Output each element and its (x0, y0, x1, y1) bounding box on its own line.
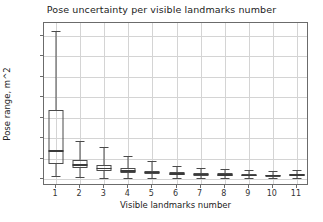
x-tick-mark (151, 185, 152, 188)
x-tick-label: 8 (212, 189, 236, 198)
x-tick-mark (296, 185, 297, 188)
x-tick-mark (103, 185, 104, 188)
cap-lower (148, 178, 157, 179)
x-tick-mark (272, 185, 273, 188)
cap-upper (268, 171, 277, 172)
cap-lower (52, 176, 61, 177)
boxplot-box-group (265, 23, 280, 184)
boxplot-box-group (97, 23, 112, 184)
boxplot-box-group (145, 23, 160, 184)
cap-upper (52, 31, 61, 32)
cap-lower (76, 177, 85, 178)
median-line (73, 164, 88, 166)
x-tick-label: 5 (139, 189, 163, 198)
boxplot-figure: Pose uncertainty per visible landmarks n… (0, 0, 323, 222)
whisker-upper (104, 147, 105, 165)
cap-lower (244, 178, 253, 179)
x-axis-label: Visible landmarks number (43, 200, 308, 210)
whisker-upper (176, 166, 177, 173)
box-iqr (49, 110, 64, 164)
boxplot-box-group (73, 23, 88, 184)
cap-upper (124, 156, 133, 157)
cap-lower (292, 178, 301, 179)
boxplot-box-group (289, 23, 304, 184)
cap-upper (76, 141, 85, 142)
cap-upper (196, 168, 205, 169)
x-tick-mark (55, 185, 56, 188)
chart-title: Pose uncertainty per visible landmarks n… (0, 4, 323, 15)
median-line (265, 175, 280, 177)
whisker-upper (152, 161, 153, 171)
x-tick-mark (127, 185, 128, 188)
x-tick-label: 1 (43, 189, 67, 198)
x-tick-mark (79, 185, 80, 188)
cap-lower (124, 178, 133, 179)
x-tick-mark (224, 185, 225, 188)
boxplot-box-group (217, 23, 232, 184)
whisker-upper (80, 141, 81, 159)
cap-lower (100, 178, 109, 179)
cap-upper (100, 147, 109, 148)
median-line (217, 174, 232, 176)
cap-upper (172, 166, 181, 167)
x-tick-label: 10 (260, 189, 284, 198)
cap-lower (196, 178, 205, 179)
cap-upper (148, 161, 157, 162)
cap-lower (268, 178, 277, 179)
x-tick-mark (200, 185, 201, 188)
cap-lower (172, 178, 181, 179)
cap-upper (244, 170, 253, 171)
cap-upper (220, 169, 229, 170)
x-tick-label: 7 (188, 189, 212, 198)
whisker-lower (56, 164, 57, 176)
x-tick-label: 9 (236, 189, 260, 198)
boxplot-box-group (169, 23, 184, 184)
boxplot-box-group (121, 23, 136, 184)
median-line (169, 173, 184, 175)
boxplot-box-group (49, 23, 64, 184)
y-axis-label: Pose range, m^2 (2, 67, 12, 140)
x-tick-label: 3 (91, 189, 115, 198)
x-tick-label: 2 (67, 189, 91, 198)
boxplot-box-group (193, 23, 208, 184)
cap-lower (220, 178, 229, 179)
x-tick-label: 11 (284, 189, 308, 198)
median-line (241, 175, 256, 177)
whisker-lower (80, 168, 81, 177)
whisker-upper (128, 156, 129, 169)
x-tick-label: 6 (164, 189, 188, 198)
median-line (289, 174, 304, 176)
boxplot-box-group (241, 23, 256, 184)
median-line (49, 150, 64, 152)
plot-area (43, 22, 308, 185)
whisker-upper (56, 31, 57, 110)
median-line (97, 168, 112, 170)
x-tick-label: 4 (115, 189, 139, 198)
x-tick-mark (176, 185, 177, 188)
whisker-lower (104, 171, 105, 178)
cap-upper (292, 170, 301, 171)
median-line (145, 172, 160, 174)
x-tick-mark (248, 185, 249, 188)
y-axis-label-container: Pose range, m^2 (0, 22, 14, 185)
median-line (121, 170, 136, 172)
median-line (193, 174, 208, 176)
